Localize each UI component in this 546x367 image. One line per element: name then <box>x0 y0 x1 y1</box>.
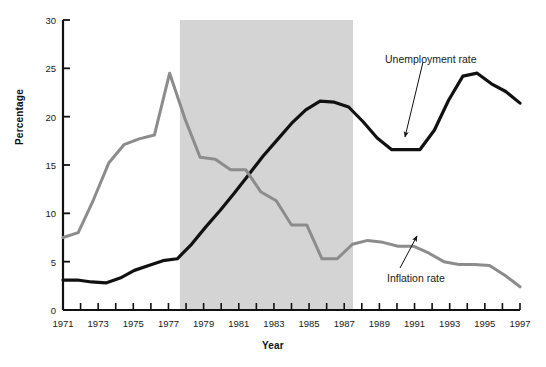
x-tick-label: 1971 <box>52 318 73 329</box>
x-tick-label: 1985 <box>298 318 319 329</box>
annotation-arrows <box>400 62 423 268</box>
y-tick-label: 10 <box>34 208 56 219</box>
x-tick-label: 1995 <box>474 318 495 329</box>
x-tick-label: 1973 <box>88 318 109 329</box>
x-tick-label: 1997 <box>509 318 530 329</box>
x-tick-label: 1977 <box>158 318 179 329</box>
annotation-arrow-icon <box>400 236 417 268</box>
chart-figure: Percentage Year 051015202530 19711973197… <box>0 0 546 367</box>
x-tick-label: 1987 <box>334 318 355 329</box>
x-tick-label: 1983 <box>263 318 284 329</box>
annotation-arrow-icon <box>405 62 423 137</box>
x-tick-label: 1981 <box>228 318 249 329</box>
series-annotation-label: Inflation rate <box>387 272 445 284</box>
x-tick-label: 1989 <box>369 318 390 329</box>
x-tick-label: 1975 <box>123 318 144 329</box>
y-tick-label: 20 <box>34 111 56 122</box>
y-tick-label: 30 <box>34 15 56 26</box>
y-tick-label: 5 <box>34 256 56 267</box>
y-axis-title: Percentage <box>14 89 25 145</box>
shaded-recession-band <box>180 20 353 310</box>
y-tick-label: 0 <box>34 305 56 316</box>
series-annotation-label: Unemployment rate <box>385 53 477 65</box>
y-tick-label: 15 <box>34 160 56 171</box>
y-tick-label: 25 <box>34 63 56 74</box>
x-tick-label: 1979 <box>193 318 214 329</box>
x-axis-title: Year <box>0 340 546 351</box>
x-tick-label: 1991 <box>404 318 425 329</box>
x-tick-label: 1993 <box>439 318 460 329</box>
